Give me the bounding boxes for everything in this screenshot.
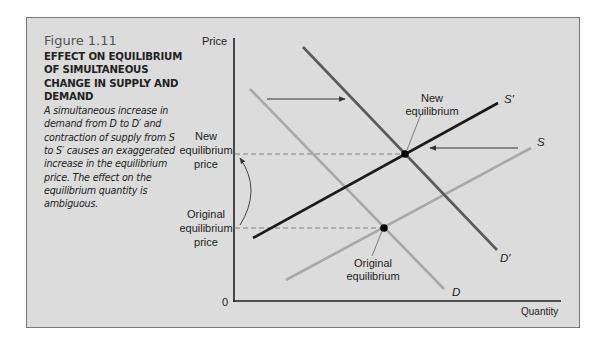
curve-label-S: S bbox=[537, 136, 545, 148]
curve-label-S-prime: S′ bbox=[504, 93, 515, 105]
orig-eq-price-label-1: Original bbox=[187, 208, 225, 220]
new-eq-price-label-2: equilibrium bbox=[179, 144, 232, 156]
orig-eq-leader bbox=[372, 231, 382, 256]
y-axis-label: Price bbox=[202, 35, 227, 47]
original-equilibrium-point bbox=[380, 224, 388, 232]
new-eq-price-label-1: New bbox=[195, 130, 217, 142]
demand-curve-D bbox=[250, 89, 444, 289]
orig-eq-price-label-2: equilibrium bbox=[179, 222, 232, 234]
new-equilibrium-point bbox=[401, 150, 409, 158]
curve-label-D-prime: D′ bbox=[500, 252, 511, 264]
new-eq-label-2: equilibrium bbox=[405, 105, 458, 117]
new-eq-label-1: New bbox=[421, 92, 443, 104]
new-eq-price-label-3: price bbox=[194, 158, 218, 170]
x-axis-label: Quantity bbox=[521, 306, 558, 317]
supply-curve-S bbox=[286, 148, 531, 280]
orig-eq-label-2: equilibrium bbox=[346, 270, 399, 282]
curve-label-D: D bbox=[452, 286, 460, 298]
price-increase-arrow-icon bbox=[240, 158, 251, 225]
chart: Price Quantity 0 New equilibrium price O… bbox=[0, 0, 607, 351]
orig-eq-price-label-3: price bbox=[194, 236, 218, 248]
origin-label: 0 bbox=[222, 296, 228, 308]
new-eq-leader bbox=[407, 114, 421, 150]
orig-eq-label-1: Original bbox=[354, 257, 392, 269]
